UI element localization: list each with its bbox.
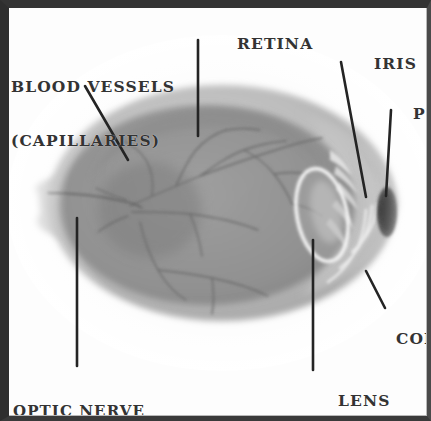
label-pupil-text: PUPIL [413, 104, 427, 123]
label-lens: LENS [286, 374, 390, 416]
label-cornea: CORNEA [344, 312, 427, 367]
diagram-canvas: RETINA BLOOD VESSELS (CAPILLARIES) IRIS … [9, 8, 427, 416]
label-lens-text: LENS [338, 391, 390, 410]
leader-line-cornea [366, 271, 385, 308]
eye-diagram-image: RETINA BLOOD VESSELS (CAPILLARIES) IRIS … [0, 0, 431, 421]
label-retina: RETINA [185, 17, 313, 72]
label-optic-nerve: OPTIC NERVE TO THE BRAIN [13, 368, 155, 416]
label-cornea-text: CORNEA [396, 329, 427, 348]
label-iris-text: IRIS [374, 54, 417, 73]
label-retina-text: RETINA [237, 34, 313, 53]
label-iris: IRIS [322, 37, 417, 92]
label-optic-nerve-line1: OPTIC NERVE [13, 403, 155, 416]
label-blood-vessels-line2: (CAPILLARIES) [11, 132, 175, 150]
eye-illustration: RETINA BLOOD VESSELS (CAPILLARIES) IRIS … [9, 8, 427, 416]
label-blood-vessels-line1: BLOOD VESSELS [11, 78, 175, 96]
label-blood-vessels: BLOOD VESSELS (CAPILLARIES) [11, 41, 175, 187]
label-pupil: PUPIL [361, 87, 427, 142]
